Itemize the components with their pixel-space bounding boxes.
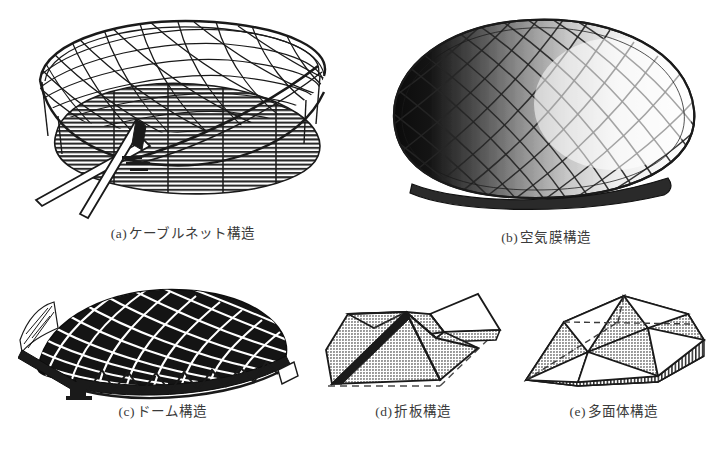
air-membrane-structure-drawing (378, 8, 714, 220)
figure-a-label: (a) (111, 226, 127, 241)
figure-e-label: (e) (570, 404, 586, 419)
membrane-highlight (534, 38, 694, 170)
figure-plate: (a)ケーブルネット構造 (0, 0, 726, 452)
figure-b-air-membrane: (b)空気膜構造 (378, 8, 714, 254)
figure-e-caption: (e)多面体構造 (508, 400, 720, 420)
figure-d-caption-text: 折板構造 (394, 404, 450, 419)
cable-net-structure-drawing (18, 4, 348, 220)
folded-plate-structure-drawing (318, 288, 508, 400)
figure-d-folded-plate: (d)折板構造 (318, 288, 508, 432)
ground-plane (55, 59, 320, 209)
figure-d-label: (d) (375, 404, 392, 419)
polyhedron-structure-drawing (508, 288, 720, 400)
figure-a-caption: (a)ケーブルネット構造 (18, 222, 348, 242)
figure-b-label: (b) (501, 230, 518, 245)
figure-b-caption: (b)空気膜構造 (378, 226, 714, 246)
figure-a-cable-net: (a)ケーブルネット構造 (18, 4, 348, 254)
figure-e-polyhedron: (e)多面体構造 (508, 288, 720, 432)
figure-c-label: (c) (119, 404, 135, 419)
figure-a-caption-text: ケーブルネット構造 (129, 226, 255, 241)
figure-b-caption-text: 空気膜構造 (520, 230, 591, 245)
figure-c-dome: (c)ドーム構造 (18, 282, 308, 432)
dome-structure-drawing (18, 282, 308, 400)
figure-c-caption-text: ドーム構造 (137, 404, 208, 419)
figure-e-caption-text: 多面体構造 (588, 404, 659, 419)
figure-d-caption: (d)折板構造 (318, 400, 508, 420)
figure-c-caption: (c)ドーム構造 (18, 400, 308, 420)
